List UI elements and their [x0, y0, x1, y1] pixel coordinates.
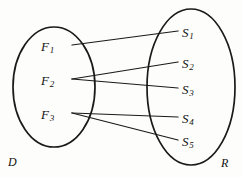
element-subscript: 1 [189, 31, 194, 41]
element-subscript: 3 [49, 113, 54, 123]
element-base: F [41, 73, 49, 88]
edge-f2-to-s3 [72, 79, 178, 88]
element-subscript: 5 [189, 140, 194, 150]
element-base: S [182, 82, 189, 97]
element-base: S [182, 111, 189, 126]
edge-f2-to-s2 [72, 62, 178, 79]
range-element-s2: S2 [182, 57, 194, 72]
range-set-label: R [221, 157, 228, 169]
range-element-s4: S4 [182, 112, 194, 127]
element-subscript: 2 [189, 62, 194, 72]
mapping-diagram-canvas: F1F2F3S1S2S3S4S5DR [0, 0, 242, 177]
domain-element-f2: F2 [41, 74, 54, 89]
diagram-svg [0, 0, 242, 177]
element-base: S [182, 25, 189, 40]
element-subscript: 2 [49, 79, 54, 89]
edge-f1-to-s1 [72, 31, 178, 45]
element-base: S [182, 56, 189, 71]
element-base: F [41, 39, 49, 54]
edge-f3-to-s5 [72, 113, 178, 140]
element-subscript: 4 [189, 117, 194, 127]
range-element-s3: S3 [182, 83, 194, 98]
edge-f3-to-s4 [72, 113, 178, 117]
element-base: S [182, 134, 189, 149]
range-element-s1: S1 [182, 26, 194, 41]
range-element-s5: S5 [182, 135, 194, 150]
domain-set-label: D [8, 156, 17, 168]
domain-element-f3: F3 [41, 108, 54, 123]
element-base: F [41, 107, 49, 122]
element-subscript: 1 [49, 45, 54, 55]
element-subscript: 3 [189, 88, 194, 98]
domain-element-f1: F1 [41, 40, 54, 55]
